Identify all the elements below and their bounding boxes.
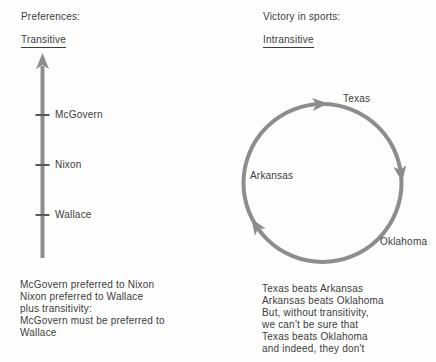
caption-line: Texas beats Arkansas xyxy=(262,283,384,295)
preference-axis xyxy=(36,53,50,258)
right-caption: Texas beats Arkansas Arkansas beats Okla… xyxy=(262,283,384,355)
left-subheading-label: Transitive xyxy=(21,34,66,48)
caption-line: But, without transitivity, xyxy=(262,307,384,319)
caption-line: Texas beats Oklahoma xyxy=(262,331,384,343)
caption-line: plus transitivity: xyxy=(20,303,165,315)
axis-label-nixon: Nixon xyxy=(55,159,82,171)
left-caption: McGovern preferred to Nixon Nixon prefer… xyxy=(20,279,165,339)
cycle-label-texas: Texas xyxy=(343,93,370,105)
axis-label-mcgovern: McGovern xyxy=(55,109,103,121)
caption-line: Arkansas beats Oklahoma xyxy=(262,295,384,307)
right-heading: Victory in sports: xyxy=(263,11,340,23)
left-heading: Preferences: xyxy=(21,11,80,23)
caption-line: McGovern preferred to Nixon xyxy=(20,279,165,291)
cycle-label-oklahoma: Oklahoma xyxy=(380,236,427,248)
caption-line: and indeed, they don't xyxy=(262,343,384,355)
right-subheading-label: Intransitive xyxy=(263,34,314,48)
axis-label-wallace: Wallace xyxy=(55,209,92,221)
cycle-circle xyxy=(244,104,402,262)
caption-line: we can't be sure that xyxy=(262,319,384,331)
left-subheading: Transitive xyxy=(21,34,66,46)
cycle-label-arkansas: Arkansas xyxy=(250,170,293,182)
right-subheading: Intransitive xyxy=(263,34,314,46)
caption-line: Nixon preferred to Wallace xyxy=(20,291,165,303)
caption-line: McGovern must be preferred to xyxy=(20,315,165,327)
caption-line: Wallace xyxy=(20,327,165,339)
figure-transitive-intransitive: Preferences: Transitive McGovern Nixon W… xyxy=(0,0,436,362)
